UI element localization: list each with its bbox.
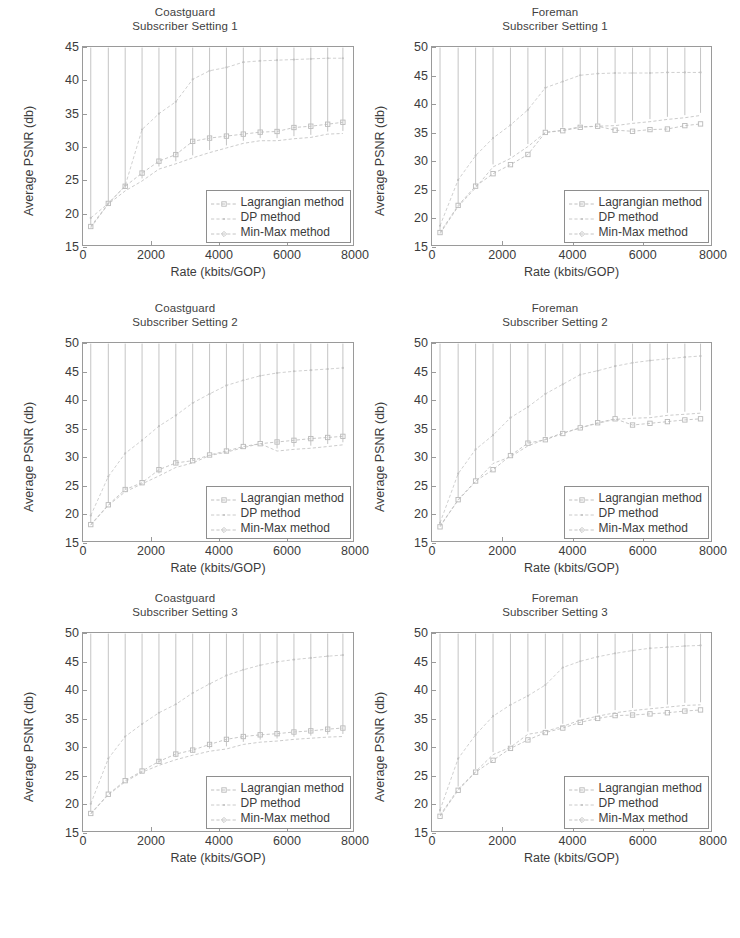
chart-legend[interactable]: Lagrangian method DP method Min-Max meth… xyxy=(206,486,351,539)
square-marker xyxy=(210,782,238,794)
dot-marker xyxy=(568,211,596,223)
legend-item[interactable]: Min-Max method xyxy=(210,810,344,825)
x-tick-label: 2000 xyxy=(137,834,165,848)
y-tick-label: 20 xyxy=(65,507,79,521)
x-tick-label: 0 xyxy=(80,544,87,558)
y-tick-label: 40 xyxy=(414,97,428,111)
legend-item[interactable]: DP method xyxy=(568,505,702,520)
panel-title-line1: Foreman xyxy=(370,302,740,316)
square-marker xyxy=(568,196,596,208)
y-tick-label: 25 xyxy=(65,769,79,783)
legend-item[interactable]: Min-Max method xyxy=(568,224,702,239)
x-tick-label: 6000 xyxy=(273,834,301,848)
chart-legend[interactable]: Lagrangian method DP method Min-Max meth… xyxy=(206,776,351,829)
x-tick-label: 4000 xyxy=(205,248,233,262)
square-marker xyxy=(568,782,596,794)
plot-axes: 152025303540455002000400060008000Rate (k… xyxy=(82,632,354,832)
y-tick-label: 20 xyxy=(65,207,79,221)
legend-label: Lagrangian method xyxy=(241,781,344,795)
legend-item[interactable]: Min-Max method xyxy=(568,520,702,535)
x-tick-label: 2000 xyxy=(137,248,165,262)
x-tick-label: 2000 xyxy=(488,834,516,848)
x-tick-label: 4000 xyxy=(559,248,587,262)
x-tick-label: 8000 xyxy=(699,248,727,262)
dot-marker xyxy=(210,211,238,223)
y-tick-label: 30 xyxy=(65,450,79,464)
panel-title: CoastguardSubscriber Setting 1 xyxy=(0,6,370,33)
legend-item[interactable]: Lagrangian method xyxy=(568,194,702,209)
y-tick-label: 20 xyxy=(414,507,428,521)
y-axis-label: Average PSNR (db) xyxy=(373,692,387,802)
y-tick-label: 35 xyxy=(414,126,428,140)
x-tick-label: 0 xyxy=(429,544,436,558)
y-tick-label: 50 xyxy=(414,626,428,640)
y-tick-label: 30 xyxy=(414,450,428,464)
plot-axes: 152025303540455002000400060008000Rate (k… xyxy=(431,342,712,542)
y-tick-label: 15 xyxy=(65,240,79,254)
legend-item[interactable]: DP method xyxy=(210,795,344,810)
chart-panel-foreman-setting-1: ForemanSubscriber Setting 1Average PSNR … xyxy=(370,0,740,296)
panel-title: CoastguardSubscriber Setting 3 xyxy=(0,592,370,619)
chart-legend[interactable]: Lagrangian method DP method Min-Max meth… xyxy=(564,190,709,243)
panel-title-line1: Foreman xyxy=(370,592,740,606)
legend-label: DP method xyxy=(241,506,301,520)
x-tick-label: 8000 xyxy=(341,544,369,558)
panel-title-line2: Subscriber Setting 1 xyxy=(0,20,370,34)
legend-item[interactable]: Lagrangian method xyxy=(210,490,344,505)
chart-panel-coastguard-setting-3: CoastguardSubscriber Setting 3Average PS… xyxy=(0,586,370,904)
panel-title-line1: Foreman xyxy=(370,6,740,20)
legend-item[interactable]: Lagrangian method xyxy=(210,194,344,209)
chart-panel-foreman-setting-2: ForemanSubscriber Setting 2Average PSNR … xyxy=(370,296,740,586)
x-tick-label: 8000 xyxy=(699,544,727,558)
panel-title-line1: Coastguard xyxy=(0,592,370,606)
y-tick-label: 30 xyxy=(414,740,428,754)
x-tick-label: 0 xyxy=(429,248,436,262)
diamond-marker xyxy=(210,226,238,238)
legend-item[interactable]: DP method xyxy=(210,209,344,224)
legend-item[interactable]: Lagrangian method xyxy=(568,780,702,795)
chart-panel-coastguard-setting-1: CoastguardSubscriber Setting 1Average PS… xyxy=(0,0,370,296)
y-tick-label: 20 xyxy=(414,797,428,811)
y-axis-label: Average PSNR (db) xyxy=(22,402,36,512)
y-tick-label: 45 xyxy=(414,655,428,669)
y-tick-label: 40 xyxy=(65,73,79,87)
legend-item[interactable]: Min-Max method xyxy=(210,224,344,239)
legend-label: Min-Max method xyxy=(599,225,688,239)
legend-label: DP method xyxy=(599,210,659,224)
legend-item[interactable]: Min-Max method xyxy=(568,810,702,825)
legend-label: DP method xyxy=(599,506,659,520)
y-axis-label: Average PSNR (db) xyxy=(22,106,36,216)
dot-marker xyxy=(210,507,238,519)
y-tick-label: 25 xyxy=(65,173,79,187)
panel-title: CoastguardSubscriber Setting 2 xyxy=(0,302,370,329)
y-tick-label: 15 xyxy=(414,826,428,840)
legend-item[interactable]: Lagrangian method xyxy=(210,780,344,795)
y-tick-label: 45 xyxy=(414,69,428,83)
x-tick-label: 6000 xyxy=(629,544,657,558)
chart-legend[interactable]: Lagrangian method DP method Min-Max meth… xyxy=(564,776,709,829)
y-tick-label: 25 xyxy=(414,769,428,783)
y-tick-label: 35 xyxy=(414,712,428,726)
y-tick-label: 30 xyxy=(65,740,79,754)
legend-item[interactable]: Min-Max method xyxy=(210,520,344,535)
legend-item[interactable]: DP method xyxy=(568,795,702,810)
legend-item[interactable]: DP method xyxy=(568,209,702,224)
chart-legend[interactable]: Lagrangian method DP method Min-Max meth… xyxy=(564,486,709,539)
chart-legend[interactable]: Lagrangian method DP method Min-Max meth… xyxy=(206,190,351,243)
x-tick-label: 0 xyxy=(429,834,436,848)
y-tick-label: 25 xyxy=(414,183,428,197)
dot-marker xyxy=(210,797,238,809)
panel-title-line1: Coastguard xyxy=(0,6,370,20)
y-tick-label: 25 xyxy=(65,479,79,493)
y-tick-label: 15 xyxy=(414,240,428,254)
legend-item[interactable]: DP method xyxy=(210,505,344,520)
legend-item[interactable]: Lagrangian method xyxy=(568,490,702,505)
panel-title-line2: Subscriber Setting 1 xyxy=(370,20,740,34)
plot-axes: 152025303540455002000400060008000Rate (k… xyxy=(82,342,354,542)
legend-label: Lagrangian method xyxy=(599,781,702,795)
y-tick-label: 35 xyxy=(65,422,79,436)
legend-label: DP method xyxy=(241,210,301,224)
y-tick-label: 45 xyxy=(65,40,79,54)
x-tick-label: 2000 xyxy=(137,544,165,558)
diamond-marker xyxy=(568,522,596,534)
